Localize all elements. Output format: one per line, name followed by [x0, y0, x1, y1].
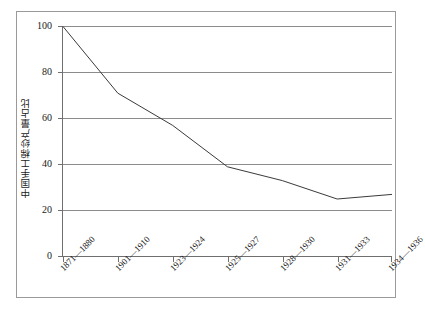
ytick-label-0: 0 — [28, 251, 52, 261]
ytick-label-100: 100 — [28, 21, 52, 31]
ytick-label-80: 80 — [28, 67, 52, 77]
data-series-line — [63, 27, 392, 200]
gridlines — [63, 27, 392, 211]
y-axis-title: 中国手工棉纱产量占比 — [21, 98, 37, 198]
ytick-label-20: 20 — [28, 205, 52, 215]
